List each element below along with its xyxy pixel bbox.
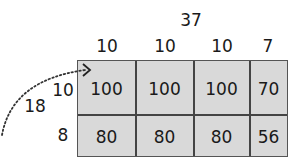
curved-arrow-icon [0,0,304,167]
